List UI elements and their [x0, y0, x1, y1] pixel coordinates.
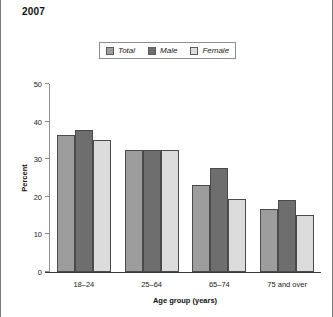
legend-item[interactable]: Male [148, 46, 177, 55]
legend-item-label: Female [202, 46, 229, 55]
y-axis-tick-label: 30 [34, 155, 42, 164]
bar-group: 18–24 [50, 84, 118, 272]
legend-swatch-icon [148, 47, 156, 55]
x-axis-group-label: 75 and over [253, 280, 321, 289]
bar-group: 75 and over [253, 84, 321, 272]
bar-female[interactable] [296, 215, 314, 272]
legend-item[interactable]: Female [190, 46, 229, 55]
bar-total[interactable] [57, 135, 75, 272]
x-axis-group-label: 65–74 [186, 280, 254, 289]
bar-group: 65–74 [186, 84, 254, 272]
y-axis-tick [45, 121, 49, 122]
bar-total[interactable] [260, 209, 278, 272]
chart-legend: TotalMaleFemale [99, 42, 236, 59]
bar-groups: 18–2425–6465–7475 and over [50, 84, 321, 272]
bar-male[interactable] [143, 150, 161, 272]
bar-female[interactable] [93, 140, 111, 272]
y-axis-tick [45, 196, 49, 197]
y-axis-tick [45, 158, 49, 159]
bar-male[interactable] [210, 168, 228, 272]
y-axis-tick [45, 271, 49, 272]
legend-swatch-icon [190, 47, 198, 55]
x-axis-group-label: 25–64 [118, 280, 186, 289]
legend-item-label: Male [160, 46, 177, 55]
y-axis-tick-label: 40 [34, 117, 42, 126]
legend-item-label: Total [118, 46, 135, 55]
bar-female[interactable] [228, 199, 246, 272]
x-axis-title: Age group (years) [49, 296, 321, 305]
bar-female[interactable] [161, 150, 179, 272]
bar-male[interactable] [278, 200, 296, 272]
plot-area: Percent 01020304050 18–2425–6465–7475 an… [49, 84, 321, 272]
legend-item[interactable]: Total [106, 46, 135, 55]
bar-group: 25–64 [118, 84, 186, 272]
y-axis-tick-label: 10 [34, 230, 42, 239]
chart-frame: 2007 TotalMaleFemale Percent 01020304050… [0, 0, 333, 317]
y-axis-tick [45, 83, 49, 84]
x-axis-line [45, 272, 321, 273]
bar-total[interactable] [125, 150, 143, 272]
y-axis-tick-label: 20 [34, 192, 42, 201]
legend-swatch-icon [106, 47, 114, 55]
chart-title: 2007 [22, 6, 45, 17]
y-axis-tick-label: 0 [38, 268, 42, 277]
bar-total[interactable] [192, 185, 210, 272]
y-axis-tick [45, 233, 49, 234]
x-axis-group-label: 18–24 [50, 280, 118, 289]
y-axis-title: Percent [20, 164, 29, 192]
bar-male[interactable] [75, 130, 93, 272]
y-axis-tick-label: 50 [34, 80, 42, 89]
